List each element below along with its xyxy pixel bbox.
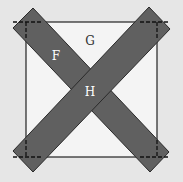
crossed-strips-diagram: F G H xyxy=(0,0,183,182)
label-g: G xyxy=(85,34,95,48)
label-f: F xyxy=(52,49,60,63)
label-h: H xyxy=(85,85,95,99)
